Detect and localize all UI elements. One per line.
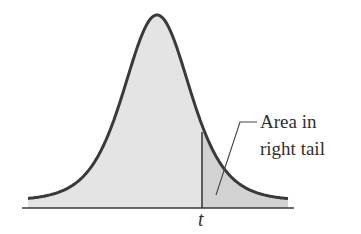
t-marker-label: t (198, 208, 204, 230)
t-distribution-figure: Area in right tail t (0, 0, 361, 234)
annotation-line-2: right tail (260, 138, 325, 159)
annotation-line-1: Area in (260, 111, 317, 132)
